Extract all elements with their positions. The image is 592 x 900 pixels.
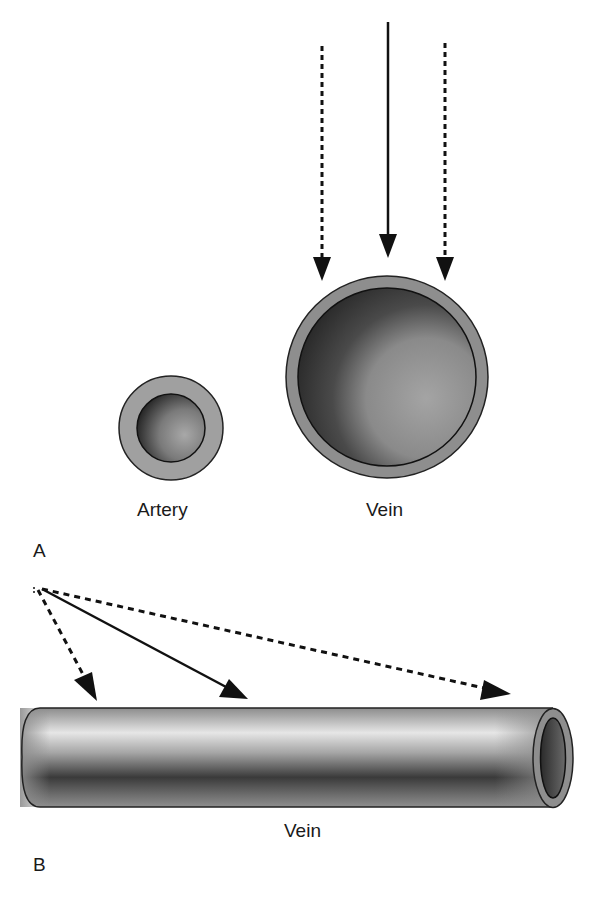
panel-b-label: B: [33, 854, 46, 876]
arrow-dashed-long: [42, 589, 511, 700]
arrow-solid-center: [379, 22, 397, 258]
arrow-dashed-left: [313, 46, 331, 281]
arrow-dashed-right: [436, 43, 454, 281]
diagram-canvas: [0, 0, 592, 900]
arrow-dashed-short: [38, 590, 97, 701]
panel-a-label: A: [33, 540, 46, 562]
artery-cross-section: [119, 376, 223, 480]
vein-label-top: Vein: [366, 499, 403, 521]
vein-tube: [20, 708, 573, 808]
vein-cross-section: [286, 276, 488, 478]
arrow-solid-diagonal: [42, 589, 248, 699]
vein-label-bottom: Vein: [284, 820, 321, 842]
artery-label: Artery: [137, 499, 188, 521]
